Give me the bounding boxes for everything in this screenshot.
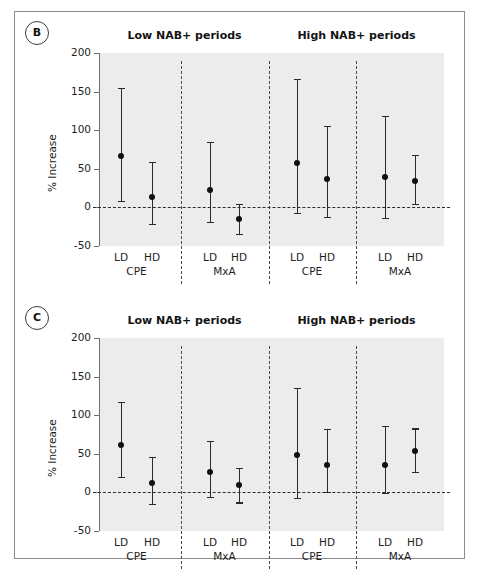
error-bar-line [121,402,122,477]
group-separator [181,346,182,569]
figure-container: B200150100500-50% IncreaseLow NAB+ perio… [0,0,479,571]
x-assay-label: MxA [370,550,430,562]
x-assay-label: CPE [282,550,342,562]
error-bar-cap-upper [324,429,331,430]
data-point-marker [207,469,213,475]
y-tick [94,454,99,455]
error-bar-cap-lower [412,472,419,473]
y-tick-label: 0 [47,485,91,497]
period-title: High NAB+ periods [269,314,444,327]
group-separator [356,346,357,569]
x-dose-label: HD [132,536,172,548]
y-tick [94,531,99,532]
data-point-marker [382,462,388,468]
x-assay-label: CPE [107,550,167,562]
y-axis-title: % Increase [46,419,58,477]
period-title: Low NAB+ periods [100,314,269,327]
error-bar-line [297,388,298,498]
error-bar-cap-lower [236,502,243,503]
error-bar-cap-upper [382,426,389,427]
y-axis-line [99,338,100,531]
x-assay-label: MxA [195,550,255,562]
y-tick [94,377,99,378]
y-tick-label: 150 [47,370,91,382]
error-bar-cap-upper [294,388,301,389]
y-tick-label: 200 [47,331,91,343]
error-bar-cap-upper [207,441,214,442]
error-bar-cap-upper [236,468,243,469]
error-bar-cap-lower [294,498,301,499]
y-tick-label: -50 [47,524,91,536]
error-bar-cap-upper [412,428,419,429]
x-dose-label: HD [395,536,435,548]
x-dose-label: HD [307,536,347,548]
data-point-marker [294,452,300,458]
data-point-marker [324,462,330,468]
error-bar-cap-lower [118,477,125,478]
zero-reference-line [93,492,450,493]
error-bar-cap-upper [149,457,156,458]
error-bar-cap-lower [324,492,331,493]
y-tick [94,415,99,416]
panel-c: C200150100500-50% IncreaseLow NAB+ perio… [0,0,479,285]
error-bar-cap-lower [207,497,214,498]
panel-label-c: C [25,306,49,330]
group-separator [269,346,270,569]
y-tick [94,338,99,339]
error-bar-cap-lower [382,493,389,494]
error-bar-cap-upper [118,402,125,403]
error-bar-line [327,429,328,492]
x-dose-label: HD [219,536,259,548]
error-bar-cap-lower [149,504,156,505]
error-bar-line [385,426,386,493]
